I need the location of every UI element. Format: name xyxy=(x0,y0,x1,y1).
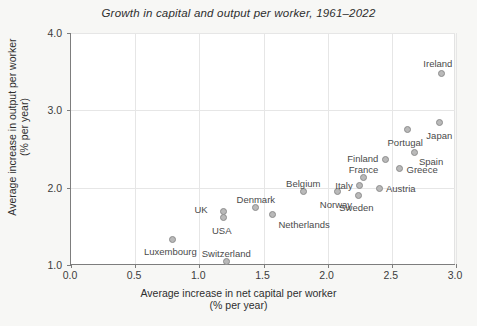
gridline-vertical xyxy=(199,33,200,264)
data-point-label: France xyxy=(349,164,379,175)
x-axis-tick xyxy=(71,264,72,268)
data-point-label: Japan xyxy=(426,130,452,141)
y-axis-tick xyxy=(67,265,71,266)
y-axis-tick xyxy=(67,33,71,34)
data-point[interactable] xyxy=(382,156,389,163)
chart-title: Growth in capital and output per worker,… xyxy=(0,7,477,19)
data-point[interactable] xyxy=(269,211,276,218)
data-point-label: Sweden xyxy=(339,202,373,213)
x-axis-tick-label: 0.0 xyxy=(63,269,78,281)
x-axis-tick-label: 2.5 xyxy=(384,269,399,281)
data-point-label: Switzerland xyxy=(202,248,251,259)
data-point-label: Austria xyxy=(386,183,416,194)
y-axis-tick-label: 1.0 xyxy=(34,259,62,271)
x-axis-title: Average increase in net capital per work… xyxy=(0,287,477,311)
x-axis-tick-label: 2.0 xyxy=(319,269,334,281)
data-point[interactable] xyxy=(404,126,411,133)
data-point-label: Denmark xyxy=(237,194,276,205)
x-axis-tick-label: 1.0 xyxy=(191,269,206,281)
plot-frame-right xyxy=(454,33,455,264)
data-point[interactable] xyxy=(355,192,362,199)
data-point-label: Luxembourg xyxy=(144,246,197,257)
gridline-vertical xyxy=(392,33,393,264)
x-axis-title-line2: (% per year) xyxy=(0,299,477,311)
y-axis-title: Average increase in output per worker (%… xyxy=(6,7,30,247)
data-point[interactable] xyxy=(396,165,403,172)
x-axis-tick xyxy=(135,264,136,268)
x-axis-tick xyxy=(392,264,393,268)
gridline-horizontal xyxy=(71,110,455,111)
data-point[interactable] xyxy=(223,258,230,265)
x-axis-tick xyxy=(456,264,457,268)
data-point-label: Portugal xyxy=(388,137,423,148)
x-axis-tick xyxy=(264,264,265,268)
scatter-chart-figure: Growth in capital and output per worker,… xyxy=(0,0,477,326)
gridline-horizontal xyxy=(71,33,455,34)
data-point-label: Italy xyxy=(71,180,353,191)
y-axis-tick-label: 2.0 xyxy=(34,182,62,194)
x-axis-tick-label: 0.5 xyxy=(127,269,142,281)
plot-area: LuxembourgSwitzerlandUKUSADenmarkNetherl… xyxy=(70,33,455,265)
gridline-vertical xyxy=(456,33,457,264)
data-point-label: Ireland xyxy=(423,58,452,69)
data-point[interactable] xyxy=(438,70,445,77)
data-point[interactable] xyxy=(169,236,176,243)
data-point[interactable] xyxy=(360,174,367,181)
y-axis-title-line1: Average increase in output per worker xyxy=(6,38,18,215)
x-axis-tick-label: 3.0 xyxy=(448,269,463,281)
data-point[interactable] xyxy=(376,185,383,192)
y-axis-title-line2: (% per year) xyxy=(18,7,30,247)
data-point[interactable] xyxy=(252,204,259,211)
data-point[interactable] xyxy=(411,149,418,156)
data-point-label: Finland xyxy=(71,153,378,164)
data-point-label: UK xyxy=(71,204,208,215)
data-point-label: Spain xyxy=(419,156,443,167)
data-point-label: Netherlands xyxy=(278,219,329,230)
x-axis-tick xyxy=(328,264,329,268)
x-axis-tick xyxy=(199,264,200,268)
data-point[interactable] xyxy=(220,214,227,221)
gridline-vertical xyxy=(264,33,265,264)
data-point[interactable] xyxy=(436,119,443,126)
y-axis-tick xyxy=(67,110,71,111)
x-axis-tick-label: 1.5 xyxy=(255,269,270,281)
y-axis-tick-label: 3.0 xyxy=(34,104,62,116)
data-point-label: USA xyxy=(212,225,232,236)
x-axis-title-line1: Average increase in net capital per work… xyxy=(141,287,337,299)
y-axis-tick-label: 4.0 xyxy=(34,27,62,39)
gridline-vertical xyxy=(135,33,136,264)
